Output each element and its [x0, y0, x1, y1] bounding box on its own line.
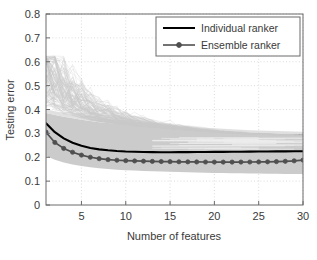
y-tick-label: 0.6 — [25, 56, 40, 68]
series-marker — [265, 160, 269, 164]
series-marker — [283, 159, 287, 163]
y-tick-label: 0.4 — [25, 104, 40, 116]
legend-swatch-marker-icon — [177, 43, 182, 48]
y-tick-label: 0.8 — [25, 8, 40, 20]
x-tick-label: 5 — [78, 210, 84, 222]
series-marker — [97, 157, 101, 161]
x-tick-label: 30 — [297, 210, 309, 222]
y-tick-label: 0.2 — [25, 151, 40, 163]
y-tick-label: 0.5 — [25, 80, 40, 92]
legend-label-individual: Individual ranker — [201, 22, 279, 34]
series-marker — [274, 160, 278, 164]
series-marker — [168, 160, 172, 164]
y-axis-title: Testing error — [4, 79, 16, 140]
x-axis-title: Number of features — [127, 230, 222, 242]
chart-figure: 00.10.20.30.40.50.60.70.851015202530 Num… — [0, 0, 317, 260]
chart-legend[interactable]: Individual ranker Ensemble ranker — [156, 17, 300, 56]
series-marker — [70, 150, 74, 154]
series-marker — [133, 159, 137, 163]
y-tick-label: 0 — [34, 199, 40, 211]
y-tick-label: 0.1 — [25, 175, 40, 187]
x-tick-label: 25 — [253, 210, 265, 222]
series-marker — [292, 159, 296, 163]
legend-label-ensemble: Ensemble ranker — [201, 39, 281, 51]
series-marker — [221, 160, 225, 164]
y-tick-label: 0.7 — [25, 32, 40, 44]
series-marker — [195, 160, 199, 164]
series-marker — [230, 160, 234, 164]
series-marker — [106, 158, 110, 162]
series-marker — [186, 160, 190, 164]
series-marker — [79, 153, 83, 157]
series-marker — [150, 159, 154, 163]
x-tick-label: 20 — [208, 210, 220, 222]
series-marker — [257, 160, 261, 164]
x-tick-label: 15 — [164, 210, 176, 222]
series-marker — [159, 159, 163, 163]
chart-canvas: 00.10.20.30.40.50.60.70.851015202530 Num… — [0, 0, 317, 260]
series-marker — [177, 160, 181, 164]
series-marker — [239, 160, 243, 164]
series-marker — [88, 155, 92, 159]
series-marker — [141, 159, 145, 163]
series-marker — [62, 146, 66, 150]
series-marker — [203, 160, 207, 164]
series-marker — [212, 160, 216, 164]
series-marker — [248, 160, 252, 164]
series-marker — [115, 158, 119, 162]
y-tick-label: 0.3 — [25, 127, 40, 139]
series-marker — [124, 159, 128, 163]
series-marker — [53, 140, 57, 144]
x-tick-label: 10 — [120, 210, 132, 222]
